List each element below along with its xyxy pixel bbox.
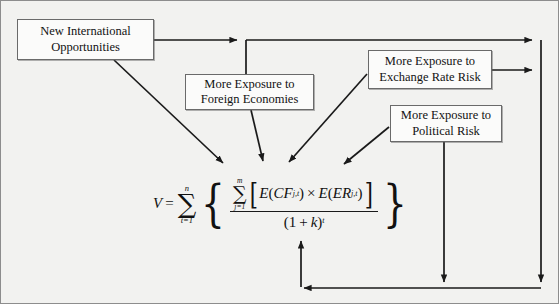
formula-equals: =: [162, 195, 176, 212]
node-more-exposure-foreign-economies[interactable]: More Exposure to Foreign Economies: [185, 74, 314, 110]
formula-term-one-base: CF: [273, 185, 292, 202]
node-more-exposure-exchange-rate-risk[interactable]: More Exposure to Exchange Rate Risk: [368, 50, 492, 89]
formula-inner-sum-lower: j=1: [234, 203, 245, 210]
node-more-exposure-political-risk[interactable]: More Exposure to Political Risk: [390, 105, 502, 142]
formula-outer-sum: n ∑ t=1: [178, 184, 197, 225]
node-label-new-international-opportunities: New International Opportunities: [40, 24, 131, 55]
formula-outer-sum-symbol: ∑: [178, 192, 197, 217]
diagram-figure: New International Opportunities More Exp…: [0, 0, 559, 304]
connector-political-risk-to-numerator: [344, 127, 389, 164]
formula-term-one-fn: E: [259, 185, 268, 202]
formula-term-two-fn: E: [319, 185, 328, 202]
formula-numerator-operator: ×: [304, 185, 318, 202]
valuation-formula-denominator: (1+k)t: [280, 212, 329, 231]
formula-outer-sum-lower: t=1: [181, 216, 193, 224]
formula-denominator-exponent: t: [322, 215, 324, 224]
formula-left-brace: {: [201, 186, 225, 222]
formula-fraction: m ∑ j=1 [ E(CFj,t) × E(ERj,t) ] (1+k)t: [230, 177, 378, 230]
formula-inner-sum: m ∑ j=1: [233, 177, 247, 209]
formula-lhs-variable: V: [153, 195, 162, 212]
formula-open-bracket: [: [249, 183, 257, 204]
node-label-more-exposure-political-risk: More Exposure to Political Risk: [401, 108, 491, 139]
formula-right-brace: }: [383, 186, 407, 222]
formula-term-two-base: ER: [333, 185, 351, 202]
connector-foreign-economies-to-numerator: [251, 110, 263, 161]
formula-term-two-close: ): [358, 185, 363, 202]
formula-inner-sum-symbol: ∑: [233, 184, 247, 202]
node-label-more-exposure-foreign-economies: More Exposure to Foreign Economies: [201, 77, 299, 108]
node-new-international-opportunities[interactable]: New International Opportunities: [17, 19, 154, 60]
node-label-more-exposure-exchange-rate-risk: More Exposure to Exchange Rate Risk: [379, 54, 480, 85]
formula-close-bracket: ]: [364, 183, 372, 204]
formula-denominator-plus: +: [296, 214, 310, 230]
valuation-formula: V = n ∑ t=1 { m ∑ j=1 [ E(CFj,t) ×: [153, 161, 373, 247]
valuation-formula-numerator: m ∑ j=1 [ E(CFj,t) × E(ERj,t) ]: [230, 177, 378, 210]
